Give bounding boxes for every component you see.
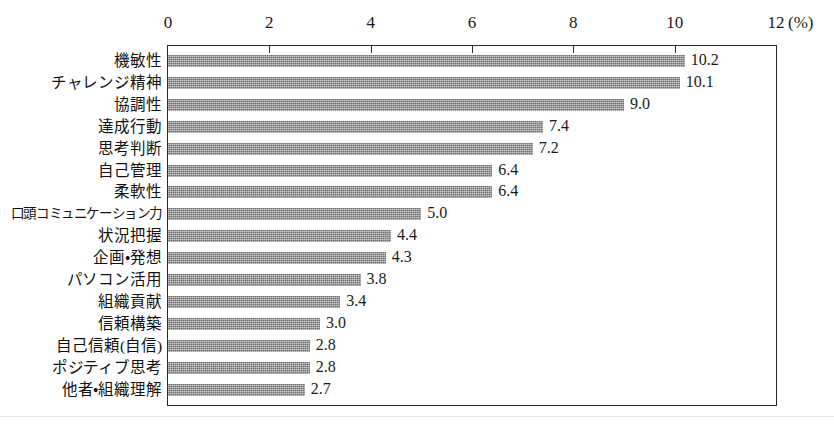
bar-value-label: 2.8	[316, 359, 336, 375]
category-label: 自己管理	[98, 162, 162, 178]
bar	[168, 362, 310, 374]
bar-value-label: 10.1	[686, 74, 714, 90]
horizontal-bar-chart: 024681012(%) 機敏性10.2チャレンジ精神10.1協調性9.0達成行…	[0, 0, 834, 428]
bar-value-label: 7.4	[549, 118, 569, 134]
bar	[168, 230, 391, 242]
bar-row: 自己信頼(自信)2.8	[0, 340, 834, 352]
bar-row: 柔軟性6.4	[0, 186, 834, 198]
bar	[168, 121, 543, 133]
bar-row: パソコン活用3.8	[0, 274, 834, 286]
category-label: パソコン活用	[67, 272, 162, 288]
page-divider-rule	[0, 416, 834, 417]
category-label: 達成行動	[98, 118, 162, 134]
bar	[168, 55, 685, 67]
bar-row: 機敏性10.2	[0, 55, 834, 67]
bar-row: 思考判断7.2	[0, 143, 834, 155]
bar-value-label: 2.7	[311, 381, 331, 397]
bar-row: 状況把握4.4	[0, 230, 834, 242]
bar	[168, 296, 340, 308]
category-label: 思考判断	[98, 140, 162, 156]
bar-value-label: 10.2	[691, 52, 719, 68]
bar-value-label: 3.0	[326, 315, 346, 331]
category-label: 他者・組織理解	[62, 381, 162, 397]
category-label: 組織貢献	[98, 294, 162, 310]
bar	[168, 340, 310, 352]
bar	[168, 208, 421, 220]
bar	[168, 143, 533, 155]
bar-value-label: 6.4	[498, 184, 518, 200]
bar-value-label: 4.4	[397, 228, 417, 244]
category-label: 状況把握	[98, 228, 162, 244]
bar-value-label: 2.8	[316, 337, 336, 353]
bar	[168, 165, 492, 177]
category-label: 柔軟性	[114, 184, 162, 200]
bar-rows: 機敏性10.2チャレンジ精神10.1協調性9.0達成行動7.4思考判断7.2自己…	[0, 0, 834, 428]
bar	[168, 384, 305, 396]
bar-value-label: 6.4	[498, 162, 518, 178]
category-label: チャレンジ精神	[51, 75, 162, 91]
category-label: 信頼構築	[98, 315, 162, 331]
bar	[168, 252, 386, 264]
category-label: 口頭コミュニケーション力	[11, 206, 162, 222]
bar	[168, 77, 680, 89]
bar	[168, 318, 320, 330]
category-label: 機敏性	[114, 53, 162, 69]
bar-value-label: 9.0	[630, 96, 650, 112]
bar-row: 組織貢献3.4	[0, 296, 834, 308]
bar	[168, 186, 492, 198]
category-label: 自己信頼(自信)	[56, 337, 162, 353]
category-label: 企画・発想	[93, 250, 162, 266]
bar-row: 他者・組織理解2.7	[0, 384, 834, 396]
bar-value-label: 5.0	[427, 206, 447, 222]
bar-row: 企画・発想4.3	[0, 252, 834, 264]
bar-value-label: 3.4	[346, 293, 366, 309]
category-label: ポジティブ思考	[52, 359, 162, 375]
bar	[168, 99, 624, 111]
bar-value-label: 7.2	[539, 140, 559, 156]
bar-row: 自己管理6.4	[0, 165, 834, 177]
bar	[168, 274, 361, 286]
bar-value-label: 3.8	[367, 271, 387, 287]
bar-value-label: 4.3	[392, 249, 412, 265]
bar-row: 協調性9.0	[0, 99, 834, 111]
bar-row: チャレンジ精神10.1	[0, 77, 834, 89]
bar-row: ポジティブ思考2.8	[0, 362, 834, 374]
bar-row: 口頭コミュニケーション力5.0	[0, 208, 834, 220]
bar-row: 信頼構築3.0	[0, 318, 834, 330]
category-label: 協調性	[114, 96, 162, 112]
bar-row: 達成行動7.4	[0, 121, 834, 133]
